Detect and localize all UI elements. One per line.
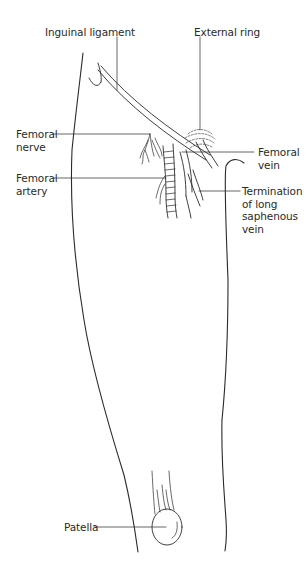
- femoral-vein: [180, 150, 192, 196]
- quadriceps-tendon: [152, 471, 174, 514]
- diagram-drawing: [0, 0, 306, 570]
- long-saphenous-vein: [186, 170, 203, 218]
- spermatic-cord: [196, 140, 218, 168]
- femoral-nerve-branches: [140, 134, 162, 164]
- external-ring-hatch-2: [185, 134, 215, 139]
- label-femoral-artery: Femoral artery: [16, 172, 58, 197]
- thigh-outline-medial: [222, 160, 244, 551]
- thigh-outline-lateral: [72, 53, 139, 552]
- anterior-superior-iliac-spine: [89, 63, 101, 85]
- femoral-artery-branches: [156, 176, 165, 204]
- label-femoral-vein: Femoral vein: [258, 146, 300, 171]
- label-femoral-nerve: Femoral nerve: [16, 128, 58, 153]
- label-external-ring: External ring: [194, 26, 260, 39]
- label-inguinal-ligament: Inguinal ligament: [45, 26, 135, 39]
- label-termination-lsv: Termination of long saphenous vein: [242, 185, 302, 235]
- patella-highlight: [172, 522, 177, 538]
- femoral-anatomy-diagram: Inguinal ligament External ring Femoral …: [0, 0, 306, 570]
- label-patella: Patella: [64, 521, 98, 534]
